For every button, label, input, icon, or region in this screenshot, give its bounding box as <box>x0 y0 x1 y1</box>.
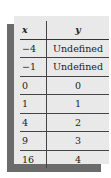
header-row: x y <box>20 21 109 39</box>
cell-y: 3 <box>47 132 110 151</box>
cell-y: Undefined <box>47 39 110 58</box>
cell-x: 4 <box>20 113 47 132</box>
cell-y: 1 <box>47 95 110 114</box>
cell-y: Undefined <box>47 58 110 77</box>
cell-x: 9 <box>20 132 47 151</box>
table-row: −4Undefined <box>20 39 109 58</box>
table-row: 42 <box>20 113 109 132</box>
cell-y: 4 <box>47 150 110 168</box>
cell-x: −4 <box>20 39 47 58</box>
table-row: 93 <box>20 132 109 151</box>
cell-y: 0 <box>47 76 110 95</box>
header-x: x <box>20 21 47 39</box>
xy-value-table: x y −4Undefined −1Undefined 00 11 42 93 … <box>20 21 109 168</box>
header-y: y <box>47 21 110 39</box>
table-row: 00 <box>20 76 109 95</box>
cell-y: 2 <box>47 113 110 132</box>
table-row: 11 <box>20 95 109 114</box>
cell-x: −1 <box>20 58 47 77</box>
cell-x: 16 <box>20 150 47 168</box>
cell-x: 1 <box>20 95 47 114</box>
table-row: 164 <box>20 150 109 168</box>
table-row: −1Undefined <box>20 58 109 77</box>
table-panel: x y −4Undefined −1Undefined 00 11 42 93 … <box>14 16 109 164</box>
cell-x: 0 <box>20 76 47 95</box>
